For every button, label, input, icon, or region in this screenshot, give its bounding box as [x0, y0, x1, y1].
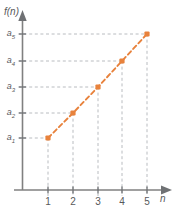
x-tick-label-3: 3 [91, 197, 105, 207]
x-tick-label-1: 1 [41, 197, 55, 207]
y-tick-label-a4-sub: 4 [12, 61, 15, 67]
vertical-gridlines [48, 34, 147, 196]
y-tick-label-a3-sub: 3 [12, 87, 15, 93]
y-tick-label-a2-sub: 2 [12, 113, 15, 119]
y-tick-label-a5-sub: 5 [12, 34, 15, 40]
data-point-2 [70, 110, 75, 115]
sequence-chart: f(n) n a5 a4 a3 a2 a1 1 2 3 4 5 [0, 0, 177, 212]
x-axis-title: n [160, 194, 166, 204]
y-axis [18, 10, 26, 190]
data-point-4 [119, 58, 124, 63]
y-axis-arrowhead [18, 10, 26, 21]
y-tick-label-a1: a1 [0, 133, 15, 144]
plot-area [0, 0, 177, 212]
x-axis [14, 186, 172, 195]
y-tick-label-a2: a2 [0, 108, 15, 119]
x-tick-label-4: 4 [115, 197, 129, 207]
y-tick-label-a3: a3 [0, 82, 15, 93]
data-point-3 [95, 84, 100, 89]
horizontal-gridlines [18, 34, 147, 138]
y-tick-label-a5: a5 [0, 29, 15, 40]
data-point-1 [45, 135, 50, 140]
y-axis-title: f(n) [4, 7, 19, 17]
x-tick-label-5: 5 [140, 197, 154, 207]
data-point-5 [144, 31, 149, 36]
x-tick-label-2: 2 [66, 197, 80, 207]
y-tick-label-a1-sub: 1 [12, 138, 15, 144]
y-tick-label-a4: a4 [0, 56, 15, 67]
